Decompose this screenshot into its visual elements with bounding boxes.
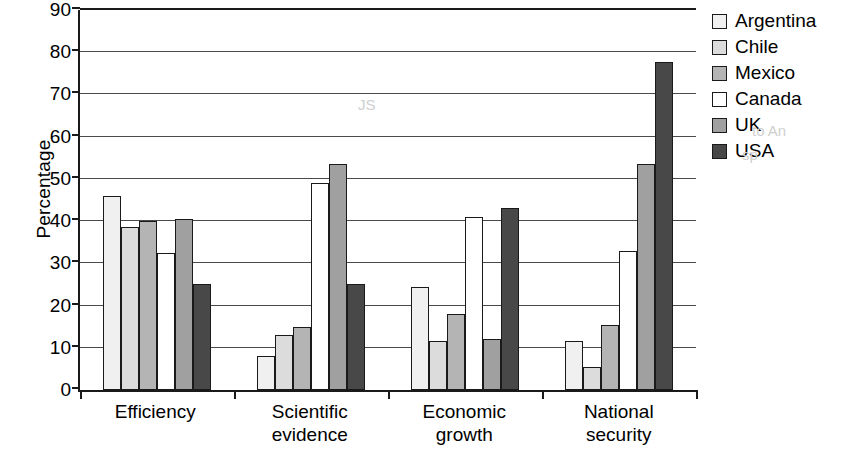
bar[interactable] <box>139 221 157 390</box>
legend: ArgentinaChileMexicoCanadaUKUSA <box>712 8 848 164</box>
x-axis-label-line: growth <box>387 423 542 446</box>
bar[interactable] <box>655 62 673 390</box>
bar[interactable] <box>293 327 311 390</box>
y-tick-mark <box>72 49 80 51</box>
x-axis-label: Scientificevidence <box>233 400 388 446</box>
x-axis-label: Efficiency <box>78 400 233 446</box>
legend-swatch-icon <box>712 92 727 107</box>
bar[interactable] <box>501 208 519 390</box>
x-tick-mark <box>80 390 82 399</box>
x-axis-label: Economicgrowth <box>387 400 542 446</box>
y-tick-label: 30 <box>50 252 71 274</box>
y-tick-label: 90 <box>50 0 71 21</box>
bar[interactable] <box>619 251 637 390</box>
x-tick-mark <box>388 390 390 399</box>
bar[interactable] <box>103 196 121 390</box>
legend-item-uk[interactable]: UK <box>712 112 848 138</box>
x-axis-label-line: Efficiency <box>78 400 233 423</box>
y-tick-mark <box>72 260 80 262</box>
y-tick-label: 80 <box>50 41 71 63</box>
x-tick-mark <box>696 390 698 399</box>
legend-label: Mexico <box>735 62 795 84</box>
bar[interactable] <box>483 339 501 390</box>
legend-swatch-icon <box>712 14 727 29</box>
x-axis-label-line: security <box>542 423 697 446</box>
y-tick-label: 60 <box>50 126 71 148</box>
bar[interactable] <box>601 325 619 390</box>
y-tick-mark <box>72 176 80 178</box>
bar[interactable] <box>447 314 465 390</box>
y-tick-mark <box>72 387 80 389</box>
legend-item-mexico[interactable]: Mexico <box>712 60 848 86</box>
x-axis-label-line: National <box>542 400 697 423</box>
bar[interactable] <box>583 367 601 390</box>
legend-label: Canada <box>735 88 802 110</box>
y-tick-label: 70 <box>50 83 71 105</box>
bar[interactable] <box>637 164 655 390</box>
bar[interactable] <box>193 284 211 390</box>
y-tick-mark <box>72 303 80 305</box>
y-tick-label: 50 <box>50 168 71 190</box>
bar[interactable] <box>347 284 365 390</box>
y-tick-label: 20 <box>50 295 71 317</box>
bar-groups <box>80 10 696 390</box>
y-tick-mark <box>72 91 80 93</box>
plot-area: 0102030405060708090 <box>78 10 696 392</box>
y-tick-label: 10 <box>50 337 71 359</box>
x-axis-label-line: evidence <box>233 423 388 446</box>
bar-group <box>80 10 234 390</box>
bar[interactable] <box>121 227 139 390</box>
y-tick-mark <box>72 218 80 220</box>
x-tick-mark <box>234 390 236 399</box>
legend-label: Argentina <box>735 10 816 32</box>
legend-item-canada[interactable]: Canada <box>712 86 848 112</box>
legend-label: Chile <box>735 36 778 58</box>
bar[interactable] <box>429 341 447 390</box>
bar[interactable] <box>275 335 293 390</box>
legend-swatch-icon <box>712 40 727 55</box>
bar[interactable] <box>329 164 347 390</box>
legend-label: USA <box>735 140 774 162</box>
legend-swatch-icon <box>712 144 727 159</box>
x-axis-label-line: Scientific <box>233 400 388 423</box>
y-tick-label: 0 <box>60 379 71 401</box>
y-tick-mark <box>72 7 80 9</box>
bar-group <box>388 10 542 390</box>
x-axis-label: Nationalsecurity <box>542 400 697 446</box>
bar[interactable] <box>565 341 583 390</box>
x-tick-mark <box>542 390 544 399</box>
bar[interactable] <box>465 217 483 390</box>
bar[interactable] <box>411 287 429 390</box>
bar[interactable] <box>311 183 329 390</box>
legend-swatch-icon <box>712 118 727 133</box>
y-tick-label: 40 <box>50 210 71 232</box>
bar-chart: Percentage 0102030405060708090 Efficienc… <box>0 0 848 456</box>
y-tick-mark <box>72 345 80 347</box>
bar-group <box>234 10 388 390</box>
bar-group <box>542 10 696 390</box>
legend-item-usa[interactable]: USA <box>712 138 848 164</box>
bar[interactable] <box>157 253 175 390</box>
legend-item-chile[interactable]: Chile <box>712 34 848 60</box>
bar[interactable] <box>175 219 193 390</box>
legend-label: UK <box>735 114 761 136</box>
legend-swatch-icon <box>712 66 727 81</box>
y-tick-mark <box>72 134 80 136</box>
bar[interactable] <box>257 356 275 390</box>
x-axis-label-line: Economic <box>387 400 542 423</box>
legend-item-argentina[interactable]: Argentina <box>712 8 848 34</box>
x-axis-labels: EfficiencyScientificevidenceEconomicgrow… <box>78 400 696 446</box>
